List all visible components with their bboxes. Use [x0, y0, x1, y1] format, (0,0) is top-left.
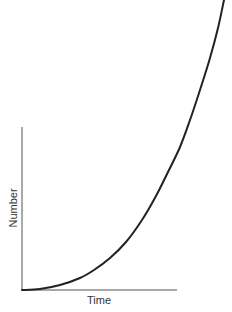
y-axis-label: Number [7, 188, 19, 227]
x-axis-label: Time [87, 294, 111, 306]
growth-chart: Time Number [0, 0, 232, 312]
growth-curve [22, 0, 224, 290]
